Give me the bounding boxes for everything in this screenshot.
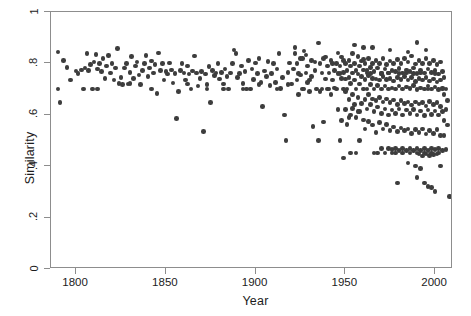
scatter-point: [363, 127, 368, 132]
scatter-point: [413, 164, 418, 169]
scatter-point: [135, 60, 140, 65]
scatter-point: [375, 151, 380, 156]
scatter-point: [363, 97, 368, 102]
x-axis-label-wrap: Year: [0, 294, 471, 308]
scatter-point: [422, 113, 427, 118]
scatter-point: [291, 67, 296, 72]
scatter-chart-figure: Similarity 0.2.4.6.81 180018501900195020…: [0, 0, 471, 316]
scatter-point: [113, 66, 118, 71]
scatter-point: [444, 107, 449, 112]
scatter-point: [293, 45, 298, 50]
plot-area: [50, 11, 452, 268]
scatter-point: [420, 61, 425, 66]
scatter-point: [440, 69, 445, 74]
scatter-point: [198, 76, 203, 81]
scatter-point: [348, 151, 353, 156]
scatter-point: [223, 67, 228, 72]
scatter-point: [386, 71, 391, 76]
scatter-point: [86, 68, 91, 73]
scatter-point: [345, 122, 350, 127]
scatter-point: [311, 124, 316, 129]
scatter-point: [205, 87, 210, 92]
scatter-point: [304, 53, 309, 58]
scatter-point: [119, 75, 124, 80]
scatter-point: [338, 138, 343, 143]
scatter-point: [128, 70, 133, 75]
scatter-point: [316, 41, 321, 46]
scatter-point: [361, 57, 366, 62]
scatter-point: [257, 82, 262, 87]
scatter-point: [383, 151, 388, 156]
scatter-point: [406, 161, 411, 166]
scatter-point: [366, 92, 371, 97]
y-axis-tick-label: 1: [29, 8, 40, 14]
x-axis-tick-label: 1800: [62, 276, 88, 288]
scatter-point: [115, 46, 120, 51]
scatter-point: [444, 147, 449, 152]
scatter-point: [327, 87, 332, 92]
scatter-point: [268, 83, 273, 88]
scatter-point: [110, 61, 115, 66]
scatter-point: [406, 60, 411, 65]
scatter-point: [257, 56, 262, 61]
scatter-point: [85, 51, 90, 56]
scatter-point: [370, 123, 375, 128]
scatter-point: [377, 95, 382, 100]
scatter-point: [366, 56, 371, 61]
scatter-point: [305, 64, 310, 69]
scatter-point: [429, 151, 434, 156]
scatter-point: [217, 77, 222, 82]
scatter-point: [442, 75, 447, 80]
scatter-point: [201, 129, 206, 134]
scatter-point: [365, 107, 370, 112]
scatter-point: [384, 62, 389, 67]
x-axis-label: Year: [202, 294, 268, 308]
scatter-point: [275, 67, 280, 72]
scatter-point: [368, 102, 373, 107]
scatter-point: [307, 89, 312, 94]
scatter-point: [400, 151, 405, 156]
scatter-point: [408, 151, 413, 156]
scatter-point: [356, 95, 361, 100]
x-axis-tick-mark: [75, 268, 76, 274]
scatter-point: [370, 45, 375, 50]
scatter-point: [347, 58, 352, 63]
scatter-point: [260, 104, 265, 109]
scatter-point: [436, 151, 441, 156]
scatter-point: [338, 71, 343, 76]
scatter-point: [341, 58, 346, 63]
scatter-point: [56, 87, 61, 92]
scatter-point: [321, 120, 326, 125]
scatter-point: [296, 92, 301, 97]
scatter-point: [230, 61, 235, 66]
scatter-point: [203, 72, 208, 77]
scatter-point: [278, 86, 283, 91]
scatter-point: [174, 116, 179, 121]
scatter-point: [397, 71, 402, 76]
scatter-point: [219, 70, 224, 75]
y-axis-tick-mark: [44, 268, 50, 269]
scatter-point: [313, 68, 318, 73]
scatter-point: [158, 68, 163, 73]
scatter-point: [140, 68, 145, 73]
scatter-point: [262, 69, 267, 74]
scatter-point: [269, 71, 274, 76]
scatter-point: [295, 61, 300, 66]
scatter-point: [347, 115, 352, 120]
scatter-point: [343, 107, 348, 112]
scatter-point: [442, 118, 447, 123]
scatter-point: [214, 71, 219, 76]
scatter-point: [160, 61, 165, 66]
scatter-point: [108, 71, 113, 76]
scatter-point: [354, 115, 359, 120]
y-axis-tick-label: .8: [29, 58, 40, 67]
scatter-point: [397, 107, 402, 112]
scatter-point: [295, 78, 300, 83]
scatter-point: [424, 48, 429, 53]
scatter-point: [68, 78, 73, 83]
scatter-point: [304, 71, 309, 76]
scatter-point: [216, 61, 221, 66]
scatter-point: [445, 98, 450, 103]
scatter-point: [399, 61, 404, 66]
scatter-point: [90, 87, 95, 92]
